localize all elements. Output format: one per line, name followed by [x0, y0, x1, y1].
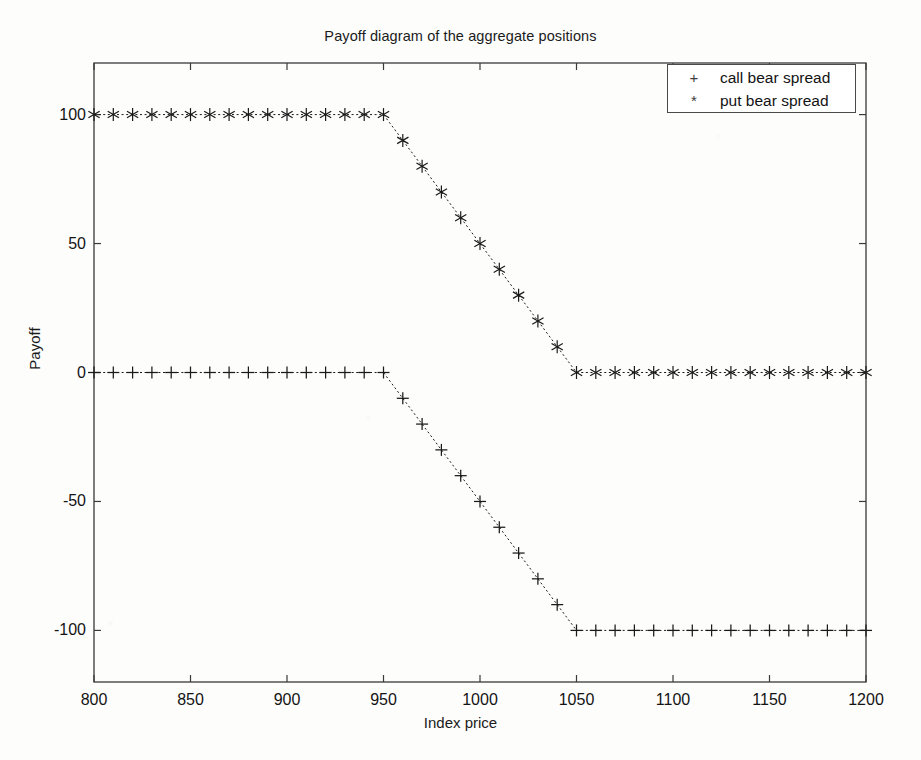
chart-legend: + call bear spread * put bear spread — [667, 64, 856, 113]
y-axis-label: Payoff — [26, 289, 43, 409]
x-tick-label: 1050 — [559, 691, 595, 709]
y-tick-label: 50 — [16, 235, 86, 253]
legend-label: call bear spread — [720, 69, 830, 87]
data-series-put-bear-spread — [88, 108, 871, 379]
y-tick-label: -50 — [16, 492, 86, 510]
x-tick-label: 1150 — [752, 691, 786, 709]
figure-canvas: Payoff diagram of the aggregate position… — [0, 0, 921, 760]
x-tick-label: 950 — [370, 691, 397, 709]
legend-item-call-bear-spread: + call bear spread — [668, 66, 857, 90]
plot-svg — [0, 0, 921, 760]
y-tick-label: 100 — [16, 106, 86, 124]
legend-item-put-bear-spread: * put bear spread — [668, 89, 857, 113]
x-tick-label: 900 — [274, 691, 301, 709]
y-tick-label: 0 — [16, 364, 86, 382]
plus-marker-icon: + — [668, 70, 720, 87]
x-tick-label: 800 — [81, 691, 108, 709]
x-tick-label: 1200 — [848, 691, 884, 709]
data-series-call-bear-spread — [88, 367, 872, 637]
legend-label: put bear spread — [720, 92, 829, 110]
asterisk-marker-icon: * — [668, 93, 720, 110]
x-tick-label: 850 — [177, 691, 204, 709]
x-axis-label: Index price — [0, 714, 921, 731]
x-tick-label: 1100 — [656, 691, 690, 709]
x-tick-label: 1000 — [462, 691, 498, 709]
y-tick-label: -100 — [16, 621, 86, 639]
